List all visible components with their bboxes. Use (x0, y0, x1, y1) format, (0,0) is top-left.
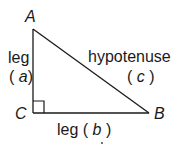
hypotenuse-word: hypotenuse (88, 49, 171, 65)
leg-a-variable: ( a) (9, 69, 33, 85)
paren-open: ( (9, 68, 14, 85)
vertex-b-label: B (154, 106, 165, 122)
vertex-c-label: C (15, 106, 27, 122)
leg-b-word: leg (57, 121, 78, 138)
paren-close: ) (106, 121, 111, 138)
vertex-a-label: A (25, 9, 36, 25)
variable-a: a (19, 68, 28, 85)
leg-b-label: leg ( b ) (57, 122, 111, 138)
dot-mark (101, 142, 103, 144)
variable-b: b (93, 121, 102, 138)
variable-c: c (137, 68, 145, 85)
paren-open: ( (127, 68, 132, 85)
paren-open: ( (83, 121, 88, 138)
paren-close: ) (149, 68, 154, 85)
leg-a-word: leg (8, 50, 29, 66)
hypotenuse-variable: ( c ) (127, 69, 155, 85)
paren-close: ) (28, 68, 33, 85)
right-angle-marker (33, 101, 44, 113)
